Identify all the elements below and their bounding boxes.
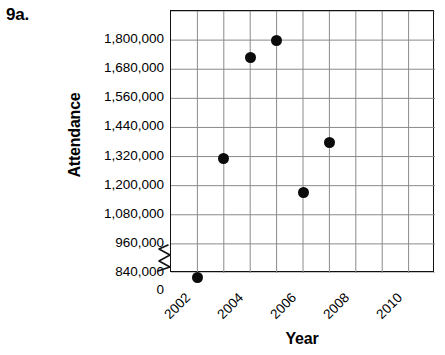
x-axis-tick-labels: 20022004200620082010 <box>170 272 445 322</box>
x-axis-tick-label: 2004 <box>215 291 246 322</box>
scatter-plot-figure: 9a. Attendance 1,800,0001,680,0001,560,0… <box>0 0 445 355</box>
y-axis-tick-label: 840,000 <box>74 265 164 279</box>
problem-number-label: 9a. <box>6 6 29 23</box>
data-point <box>271 35 282 46</box>
x-axis-tick-label: 2002 <box>162 291 193 322</box>
y-axis-tick-label: 0 <box>74 283 164 297</box>
y-axis-tick-label: 1,320,000 <box>74 149 164 163</box>
x-axis-title: Year <box>170 330 434 348</box>
y-axis-tick-label: 1,080,000 <box>74 207 164 221</box>
data-point <box>324 137 335 148</box>
y-axis-tick-label: 1,200,000 <box>74 178 164 192</box>
data-point <box>298 187 309 198</box>
x-axis-tick-label: 2006 <box>268 291 299 322</box>
y-axis-tick-label: 960,000 <box>74 236 164 250</box>
y-axis-tick-label: 1,440,000 <box>74 120 164 134</box>
y-axis-tick-label: 1,560,000 <box>74 91 164 105</box>
data-point <box>218 153 229 164</box>
y-axis-tick-labels: 1,800,0001,680,0001,560,0001,440,0001,32… <box>74 10 164 272</box>
axis-break-zigzag-icon <box>156 243 176 273</box>
x-axis-tick-label: 2008 <box>321 291 352 322</box>
y-axis-tick-label: 1,680,000 <box>74 61 164 75</box>
data-point <box>245 52 256 63</box>
y-axis-tick-label: 1,800,000 <box>74 32 164 46</box>
x-axis-tick-label: 2010 <box>374 291 405 322</box>
data-points-layer <box>171 11 435 273</box>
plot-area <box>170 10 434 272</box>
